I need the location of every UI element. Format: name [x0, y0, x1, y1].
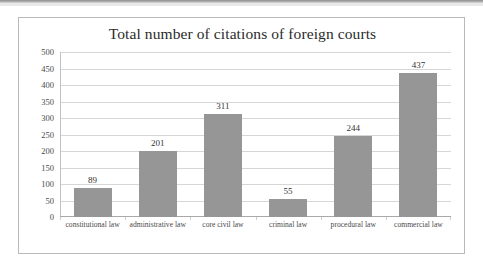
- bar[interactable]: 311: [204, 114, 242, 217]
- bar-value-label: 244: [347, 123, 361, 133]
- bar-slot: 201: [125, 52, 190, 217]
- bar-slot: 244: [321, 52, 386, 217]
- y-axis-tick-label: 400: [41, 80, 54, 90]
- bar-value-label: 311: [216, 101, 229, 111]
- y-axis-tick-label: 50: [46, 196, 55, 206]
- y-axis-tick-label: 350: [41, 97, 54, 107]
- bar[interactable]: 244: [334, 136, 372, 217]
- bar-series: 8920131155244437: [60, 52, 451, 217]
- plot-area: 8920131155244437: [60, 52, 451, 217]
- y-axis-tick-label: 0: [50, 212, 54, 222]
- y-axis-tick-labels: 500450400350300250200150100500: [19, 52, 57, 217]
- y-axis-tick-label: 300: [41, 113, 54, 123]
- x-axis-category-label: administrative law: [125, 220, 190, 229]
- bar-value-label: 89: [88, 175, 97, 185]
- x-axis-category-label: commercial law: [386, 220, 451, 229]
- chart-title: Total number of citations of foreign cou…: [19, 25, 466, 43]
- scan-artifact-shadow: [0, 4, 483, 6]
- bar[interactable]: 55: [269, 199, 307, 217]
- x-axis-category-labels: constitutional lawadministrative lawcore…: [60, 220, 451, 229]
- bar-slot: 55: [256, 52, 321, 217]
- chart-frame: Total number of citations of foreign cou…: [18, 17, 465, 254]
- bar[interactable]: 89: [74, 188, 112, 217]
- y-axis-tick-label: 100: [41, 179, 54, 189]
- y-axis-tick-label: 200: [41, 146, 54, 156]
- y-axis-tick-label: 250: [41, 130, 54, 140]
- x-axis-category-label: constitutional law: [60, 220, 125, 229]
- bar-slot: 437: [386, 52, 451, 217]
- y-axis-tick-label: 500: [41, 47, 54, 57]
- y-axis-tick-label: 450: [41, 64, 54, 74]
- bar-slot: 89: [60, 52, 125, 217]
- bar[interactable]: 437: [399, 73, 437, 217]
- bar[interactable]: 201: [139, 151, 177, 217]
- y-axis-tick-label: 150: [41, 163, 54, 173]
- x-axis-category-label: core civil law: [190, 220, 255, 229]
- bar-slot: 311: [190, 52, 255, 217]
- x-axis-category-label: criminal law: [256, 220, 321, 229]
- bar-value-label: 437: [412, 60, 426, 70]
- bar-value-label: 201: [151, 138, 165, 148]
- bar-value-label: 55: [284, 186, 293, 196]
- x-axis-category-label: procedural law: [321, 220, 386, 229]
